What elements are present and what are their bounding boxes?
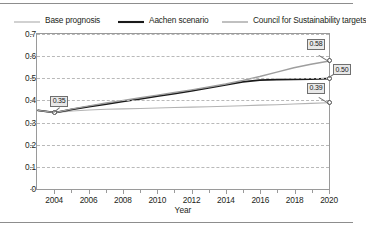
data-label: 0.39 [307,83,325,94]
x-tick-mark [277,190,278,193]
y-axis: 00.10.20.30.40.50.60.7 [0,33,36,190]
bottom-divider [0,222,353,223]
data-label: 0.58 [307,39,325,50]
gridline [37,56,329,57]
x-tick-mark [295,190,296,194]
x-tick-label: 2012 [183,196,201,205]
x-tick-mark [312,190,313,193]
data-label: 0.50 [333,64,351,75]
y-tick-mark [30,145,34,146]
x-tick-mark [54,190,55,194]
x-tick-mark [123,190,124,194]
data-label: 0.35 [50,96,68,107]
x-tick-label: 2020 [320,196,338,205]
x-tick-mark [243,190,244,193]
x-tick-mark [260,190,261,194]
x-tick-label: 2004 [45,196,63,205]
y-tick-mark [30,167,34,168]
x-tick-mark [71,190,72,193]
legend-item-council-targets: Council for Sustainability targets [222,14,366,26]
gridline [37,34,329,35]
gridline [37,167,329,168]
series-lines [37,34,329,189]
x-tick-mark [226,190,227,194]
plot-area [36,33,330,190]
x-tick-label: 2006 [80,196,98,205]
x-tick-mark [209,190,210,193]
legend-item-base-prognosis: Base prognosis [14,14,100,26]
x-tick-mark [106,190,107,193]
legend-label-base-prognosis: Base prognosis [45,14,100,26]
y-tick-mark [30,56,34,57]
y-tick-mark [30,189,34,190]
legend-line-swatch-council-targets [222,11,248,29]
gridline [37,123,329,124]
y-tick-mark [30,123,34,124]
x-tick-label: 2014 [217,196,235,205]
legend-line-swatch-aachen-scenario [118,11,144,29]
x-axis-title: Year [36,205,330,215]
x-tick-label: 2018 [286,196,304,205]
x-tick-mark [140,190,141,193]
legend-label-council-targets: Council for Sustainability targets [253,14,366,26]
x-tick-mark [192,190,193,194]
top-divider [0,3,353,4]
x-tick-label: 2010 [148,196,166,205]
x-tick-label: 2016 [251,196,269,205]
y-tick-mark [30,78,34,79]
legend-line-swatch-base-prognosis [14,11,40,29]
x-tick-mark [89,190,90,194]
legend-item-aachen-scenario: Aachen scenario [118,14,209,26]
y-tick-mark [30,100,34,101]
x-tick-mark [329,190,330,194]
x-tick-mark [174,190,175,193]
y-tick-mark [30,34,34,35]
gridline [37,145,329,146]
x-tick-label: 2008 [114,196,132,205]
x-tick-mark [157,190,158,194]
chart-legend: Base prognosis Aachen scenario Council f… [0,14,353,26]
gridline [37,78,329,79]
legend-label-aachen-scenario: Aachen scenario [149,14,209,26]
gridline [37,100,329,101]
